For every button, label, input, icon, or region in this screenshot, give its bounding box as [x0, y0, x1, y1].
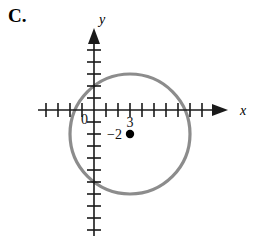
x-axis-arrowhead	[212, 104, 228, 116]
point-marker	[126, 130, 134, 138]
point-y-label: −2	[107, 127, 122, 142]
y-axis-label: y	[97, 12, 106, 27]
point-x-label: 3	[127, 115, 134, 130]
x-axis-label: x	[239, 103, 247, 118]
y-axis-arrowhead	[88, 28, 100, 44]
origin-label: 0	[81, 112, 88, 127]
coordinate-plane-figure: 0 x y 3 −2	[0, 0, 269, 248]
